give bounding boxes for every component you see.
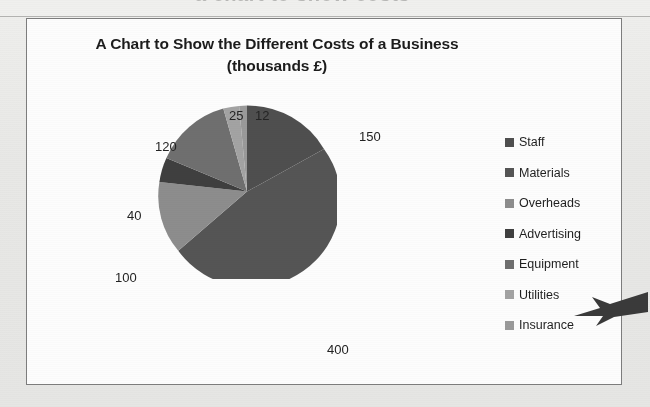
- scanned-page: a chart to show costs A Chart to Show th…: [0, 0, 650, 407]
- legend-label: Insurance: [519, 318, 574, 332]
- top-rule-divider: [0, 16, 650, 17]
- legend-label: Equipment: [519, 257, 579, 271]
- data-label-staff: 150: [359, 129, 381, 144]
- ghost-text-above: a chart to show costs: [195, 0, 410, 6]
- data-label-utilities: 25: [229, 108, 243, 123]
- legend-label: Materials: [519, 166, 570, 180]
- pie-slices: [158, 105, 337, 279]
- legend-swatch-icon: [505, 260, 514, 269]
- data-label-materials: 400: [327, 342, 349, 357]
- legend-item-advertising[interactable]: Advertising: [505, 219, 617, 250]
- plot-area: 150 400 100 40 120 25 12 Staff Materials…: [27, 19, 623, 386]
- legend-label: Overheads: [519, 196, 580, 210]
- legend-swatch-icon: [505, 199, 514, 208]
- legend-label: Advertising: [519, 227, 581, 241]
- data-label-equipment: 120: [155, 139, 177, 154]
- legend-label: Staff: [519, 135, 544, 149]
- chart-legend: Staff Materials Overheads Advertising Eq…: [505, 127, 617, 341]
- data-label-overheads: 100: [115, 270, 137, 285]
- legend-swatch-icon: [505, 290, 514, 299]
- data-label-advertising: 40: [127, 208, 141, 223]
- legend-item-utilities[interactable]: Utilities: [505, 280, 617, 311]
- legend-item-insurance[interactable]: Insurance: [505, 310, 617, 341]
- legend-item-overheads[interactable]: Overheads: [505, 188, 617, 219]
- pie-chart: [157, 104, 337, 279]
- legend-label: Utilities: [519, 288, 559, 302]
- legend-item-materials[interactable]: Materials: [505, 158, 617, 189]
- legend-swatch-icon: [505, 168, 514, 177]
- legend-item-staff[interactable]: Staff: [505, 127, 617, 158]
- data-label-insurance: 12: [255, 108, 269, 123]
- legend-item-equipment[interactable]: Equipment: [505, 249, 617, 280]
- chart-frame: A Chart to Show the Different Costs of a…: [26, 18, 622, 385]
- legend-swatch-icon: [505, 321, 514, 330]
- legend-swatch-icon: [505, 229, 514, 238]
- page-top-bleed: a chart to show costs: [0, 0, 650, 17]
- legend-swatch-icon: [505, 138, 514, 147]
